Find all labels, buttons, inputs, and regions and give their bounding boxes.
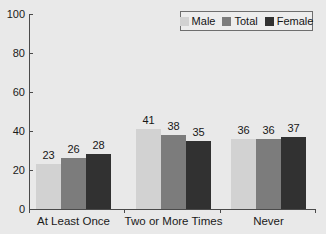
y-axis-tick (29, 53, 33, 54)
bar-male (136, 129, 161, 209)
bar-total (256, 139, 281, 209)
bar-value-label: 36 (256, 125, 281, 136)
y-axis-tick-label: 20 (0, 165, 25, 176)
bar-value-label: 26 (61, 144, 86, 155)
x-axis-tick (315, 209, 316, 213)
bar-value-label: 37 (281, 123, 306, 134)
y-axis-tick-label: 60 (0, 87, 25, 98)
bar-value-label: 35 (186, 127, 211, 138)
legend-entry-female[interactable]: Female (265, 16, 314, 27)
bar-male (36, 164, 61, 209)
y-axis-tick (29, 170, 33, 171)
y-axis-tick (29, 131, 33, 132)
y-axis-tick-label: 40 (0, 126, 25, 137)
y-axis-line (29, 14, 30, 210)
legend-entry-total[interactable]: Total (222, 16, 257, 27)
bar-female (186, 141, 211, 209)
x-axis-tick (220, 209, 221, 213)
legend-label-female: Female (277, 16, 314, 27)
legend-entry-male[interactable]: Male (180, 16, 216, 27)
x-axis-category-label: Never (199, 215, 326, 228)
bar-total (61, 158, 86, 209)
chart-legend: Male Total Female (180, 11, 313, 31)
legend-swatch-female-icon (265, 17, 274, 26)
bar-value-label: 38 (161, 121, 186, 132)
bar-total (161, 135, 186, 209)
y-axis-tick (29, 14, 33, 15)
bar-female (281, 137, 306, 209)
y-axis-tick (29, 92, 33, 93)
y-axis-tick-label: 0 (0, 204, 25, 215)
y-axis-tick-label: 100 (0, 9, 25, 20)
x-axis-tick (29, 209, 30, 213)
bar-female (86, 154, 111, 209)
bar-value-label: 41 (136, 115, 161, 126)
bar-male (231, 139, 256, 209)
legend-label-total: Total (234, 16, 257, 27)
x-axis-tick (124, 209, 125, 213)
bar-value-label: 28 (86, 140, 111, 151)
bar-value-label: 23 (36, 150, 61, 161)
bar-chart: 020406080100 232628413835363637 At Least… (0, 0, 326, 234)
legend-swatch-male-icon (180, 17, 189, 26)
legend-label-male: Male (192, 16, 216, 27)
bar-value-label: 36 (231, 125, 256, 136)
y-axis-tick-label: 80 (0, 48, 25, 59)
x-axis-line (29, 209, 316, 210)
legend-swatch-total-icon (222, 17, 231, 26)
